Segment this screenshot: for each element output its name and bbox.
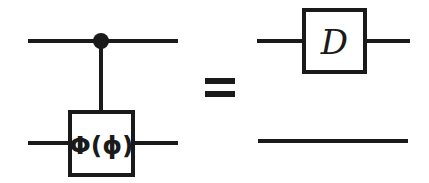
control-dot[interactable]: [93, 33, 109, 49]
displacement-gate-label: D: [320, 22, 348, 62]
left-circuit-group: Φ(ϕ): [28, 33, 178, 175]
phase-gate-label: Φ(ϕ): [69, 131, 133, 160]
equality-relation: [205, 78, 235, 97]
right-circuit-group: D: [257, 10, 410, 141]
equals-bar-top: [205, 78, 235, 84]
quantum-circuit-figure: Φ(ϕ) D: [0, 0, 429, 183]
circuit-canvas: Φ(ϕ) D: [0, 0, 429, 183]
equals-bar-bottom: [205, 91, 235, 97]
